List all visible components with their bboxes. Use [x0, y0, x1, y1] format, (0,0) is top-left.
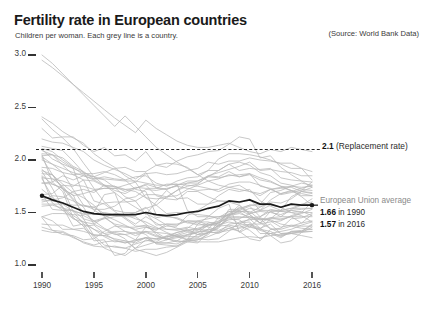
fertility-line-chart [0, 0, 431, 310]
country-line [42, 55, 312, 196]
eu-average-1990: 1.66 in 1990 [320, 208, 365, 217]
x-tick-label: 2000 [126, 281, 166, 290]
x-tick-mark [145, 272, 146, 278]
eu-1990-value: 1.66 [320, 208, 336, 217]
x-tick-mark [311, 272, 312, 278]
country-line-group [42, 55, 312, 256]
y-tick-label: 1.0 [2, 259, 26, 268]
country-line [42, 129, 312, 188]
chart-page: Fertility rate in European countries Chi… [0, 0, 431, 310]
y-tick-mark [28, 54, 36, 56]
replacement-rate-value: 2.1 [322, 141, 334, 151]
y-tick-mark [28, 159, 36, 161]
eu-average-label: European Union average [320, 196, 411, 205]
y-tick-mark [28, 107, 36, 109]
eu-2016-value: 1.57 [320, 220, 336, 229]
x-tick-mark [41, 272, 42, 278]
y-tick-mark [28, 264, 36, 266]
eu-average-2016: 1.57 in 2016 [320, 220, 365, 229]
x-tick-label: 2005 [178, 281, 218, 290]
replacement-rate-annotation: 2.1 (Replacement rate) [322, 141, 408, 151]
eu-2016-suffix: in 2016 [336, 220, 365, 229]
x-tick-label: 2016 [292, 281, 332, 290]
x-tick-mark [249, 272, 250, 278]
country-line [42, 60, 312, 153]
y-tick-label: 1.5 [2, 207, 26, 216]
y-tick-mark [28, 212, 36, 214]
replacement-rate-label: (Replacement rate) [334, 141, 408, 151]
x-tick-label: 1995 [74, 281, 114, 290]
x-tick-label: 1990 [22, 281, 62, 290]
x-tick-mark [93, 272, 94, 278]
eu-1990-suffix: in 1990 [336, 208, 365, 217]
y-tick-label: 3.0 [2, 49, 26, 58]
y-tick-label: 2.5 [2, 102, 26, 111]
eu-start-marker [40, 194, 44, 198]
y-tick-label: 2.0 [2, 154, 26, 163]
x-tick-mark [197, 272, 198, 278]
x-tick-label: 2010 [230, 281, 270, 290]
